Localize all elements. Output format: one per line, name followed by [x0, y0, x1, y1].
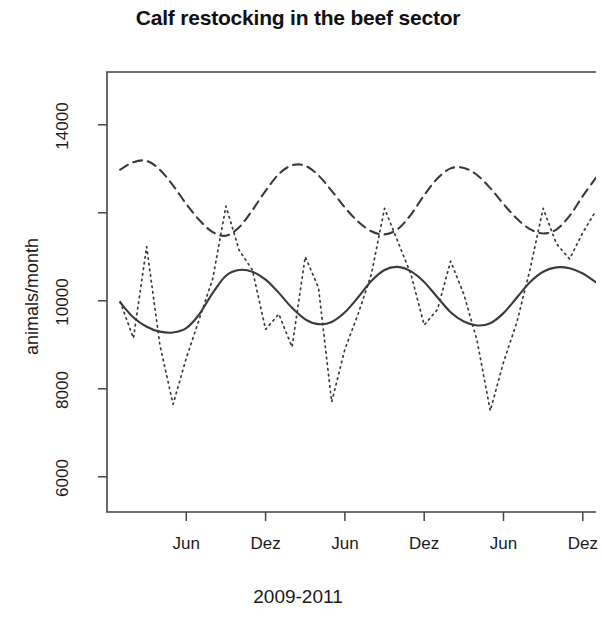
- x-tick-label-0: Jun: [156, 534, 216, 554]
- series-clip-group: [120, 160, 596, 410]
- series-trend: [120, 267, 596, 333]
- x-tick-label-5: Dez: [553, 534, 602, 554]
- x-tick-label-4: Jun: [473, 534, 533, 554]
- x-tick-label-2: Jun: [315, 534, 375, 554]
- series-observed: [120, 206, 596, 411]
- data-series-group: [120, 160, 596, 410]
- y-tick-label-8000: 8000: [53, 355, 73, 425]
- axis-ticks: [98, 125, 583, 521]
- series-upper-band: [120, 160, 596, 236]
- y-tick-label-10000: 10000: [53, 267, 73, 337]
- x-tick-label-1: Dez: [236, 534, 296, 554]
- y-tick-label-6000: 6000: [53, 443, 73, 513]
- y-tick-label-14000: 14000: [53, 91, 73, 161]
- x-tick-label-3: Dez: [394, 534, 454, 554]
